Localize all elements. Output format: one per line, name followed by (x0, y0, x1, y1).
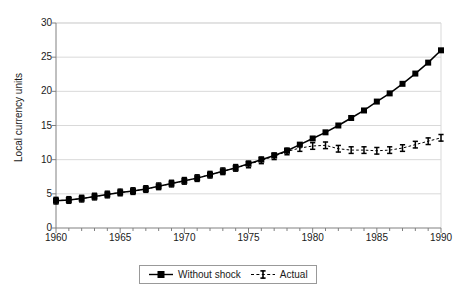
series-line (56, 138, 441, 201)
data-point-marker (387, 90, 393, 96)
data-point-marker (335, 123, 341, 129)
chart-legend: Without shock Actual (139, 265, 317, 284)
data-point-marker (438, 134, 443, 141)
legend-item-actual[interactable]: Actual (250, 269, 308, 280)
data-point-marker (323, 129, 329, 135)
legend-item-without-shock[interactable]: Without shock (148, 269, 241, 280)
chart-figure: Local currency units 051015202530 196019… (0, 0, 455, 299)
data-point-marker (400, 81, 406, 87)
data-point-marker (348, 115, 354, 121)
data-point-marker (374, 99, 380, 105)
plot-area (0, 0, 455, 299)
data-point-marker (374, 147, 379, 154)
data-point-marker (361, 107, 367, 113)
data-point-marker (425, 60, 431, 66)
data-point-marker (310, 135, 316, 141)
data-point-marker (426, 138, 431, 145)
data-point-marker (336, 145, 341, 152)
legend-marker-square-icon (148, 269, 174, 280)
data-point-marker (412, 71, 418, 77)
legend-marker-ibeam-icon (250, 269, 276, 280)
legend-label-without-shock: Without shock (178, 269, 241, 280)
data-point-marker (438, 47, 444, 53)
legend-label-actual: Actual (280, 269, 308, 280)
